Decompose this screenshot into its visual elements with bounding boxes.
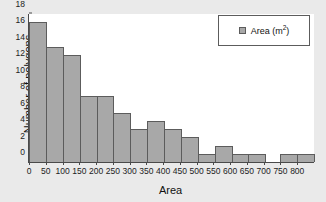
bar-0 <box>29 22 47 162</box>
x-tick-mark-0 <box>29 162 30 165</box>
x-tick-mark-450 <box>180 162 181 165</box>
y-tick-label-10: 10 <box>16 65 29 75</box>
bar-100 <box>63 55 81 162</box>
bar-50 <box>46 47 64 162</box>
bar-400 <box>164 129 182 162</box>
bar-350 <box>147 121 165 162</box>
bar-650 <box>248 154 266 162</box>
x-tick-mark-50 <box>46 162 47 165</box>
y-tick-label-4: 4 <box>20 114 29 124</box>
x-tick-mark-100 <box>63 162 64 165</box>
x-tick-mark-350 <box>146 162 147 165</box>
legend: Area (m2) <box>218 15 310 46</box>
bar-750 <box>280 154 298 162</box>
bar-250 <box>113 113 131 162</box>
bar-600 <box>232 154 250 162</box>
x-tick-mark-600 <box>230 162 231 165</box>
y-tick-label-18: 18 <box>16 0 29 9</box>
bar-200 <box>97 96 115 162</box>
x-tick-mark-650 <box>247 162 248 165</box>
x-tick-mark-400 <box>163 162 164 165</box>
bar-550 <box>215 146 233 162</box>
y-tick-label-8: 8 <box>20 81 29 91</box>
legend-swatch-area <box>239 27 246 34</box>
y-tick-label-0: 0 <box>20 147 29 157</box>
bar-450 <box>181 137 199 162</box>
histogram-figure: Number of polygons 024681012141618 05010… <box>0 0 326 202</box>
x-tick-mark-750 <box>280 162 281 165</box>
x-tick-mark-300 <box>130 162 131 165</box>
x-tick-mark-250 <box>113 162 114 165</box>
y-tick-label-12: 12 <box>16 48 29 58</box>
x-tick-mark-700 <box>264 162 265 165</box>
legend-label-area: Area (m2) <box>251 26 290 36</box>
bar-150 <box>80 96 98 162</box>
x-tick-mark-500 <box>197 162 198 165</box>
y-tick-label-14: 14 <box>16 32 29 42</box>
y-tick-label-2: 2 <box>20 131 29 141</box>
x-tick-mark-150 <box>79 162 80 165</box>
x-axis-title: Area <box>28 184 313 196</box>
bar-500 <box>198 154 216 162</box>
y-tick-label-16: 16 <box>16 15 29 25</box>
x-tick-mark-200 <box>96 162 97 165</box>
x-tick-mark-800 <box>297 162 298 165</box>
y-tick-label-6: 6 <box>20 98 29 108</box>
bar-300 <box>130 129 148 162</box>
x-tick-mark-550 <box>213 162 214 165</box>
bar-800 <box>297 154 315 162</box>
